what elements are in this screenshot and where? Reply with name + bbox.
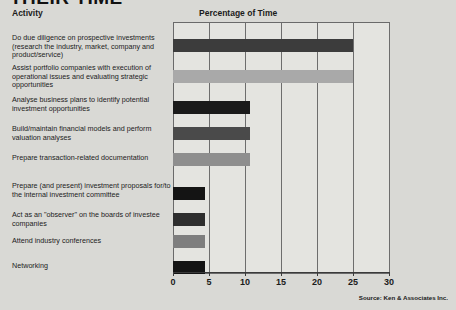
gridline-30: [389, 22, 390, 272]
activity-label-1: Do due diligence on prospective investme…: [12, 34, 172, 60]
tick-label-0: 0: [170, 277, 175, 287]
tick-0: [173, 272, 174, 276]
bar-8: [173, 235, 205, 248]
tick-25: [353, 272, 354, 276]
tick-30: [389, 272, 390, 276]
tick-label-15: 15: [276, 277, 286, 287]
activity-label-2: Assist portfolio companies with executio…: [12, 64, 172, 90]
tick-5: [209, 272, 210, 276]
bar-2: [173, 70, 353, 83]
tick-label-10: 10: [240, 277, 250, 287]
tick-label-30: 30: [384, 277, 394, 287]
column-header-activity: Activity: [12, 8, 43, 18]
activity-label-7: Act as an "observer" on the boards of in…: [12, 211, 172, 228]
tick-label-20: 20: [312, 277, 322, 287]
tick-label-5: 5: [206, 277, 211, 287]
chart-page: THEIR TIME Activity Percentage of Time 0…: [0, 0, 456, 310]
activity-label-5: Prepare transaction-related documentatio…: [12, 154, 172, 163]
activity-label-9: Networking: [12, 262, 172, 271]
bar-4: [173, 127, 250, 140]
column-header-percentage: Percentage of Time: [199, 8, 277, 18]
tick-15: [281, 272, 282, 276]
bar-1: [173, 39, 353, 52]
bar-3: [173, 101, 250, 114]
activity-label-4: Build/maintain financial models and perf…: [12, 125, 172, 142]
tick-10: [245, 272, 246, 276]
tick-label-25: 25: [348, 277, 358, 287]
bar-7: [173, 213, 205, 226]
activity-label-3: Analyse business plans to identify poten…: [12, 96, 172, 113]
bar-6: [173, 187, 205, 200]
bar-5: [173, 153, 250, 166]
tick-20: [317, 272, 318, 276]
source-note: Source: Ken & Associates Inc.: [359, 294, 448, 301]
activity-label-6: Prepare (and present) investment proposa…: [12, 182, 172, 199]
activity-label-8: Attend industry conferences: [12, 237, 172, 246]
bars-layer: [173, 22, 389, 272]
